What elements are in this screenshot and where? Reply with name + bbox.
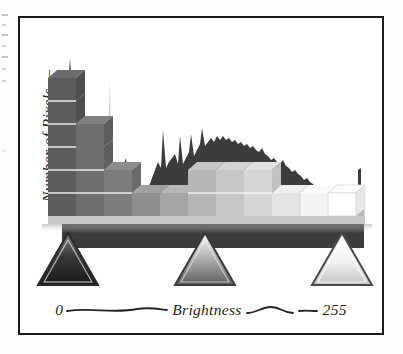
scan-artifact bbox=[2, 34, 8, 36]
histogram-graphic bbox=[20, 18, 382, 333]
x-axis-name: Brightness bbox=[169, 301, 244, 319]
scan-artifact bbox=[2, 80, 6, 82]
scan-artifact bbox=[2, 45, 6, 47]
x-axis-max-value: 255 bbox=[321, 301, 349, 319]
scan-artifact bbox=[2, 56, 8, 58]
x-axis-label: 0 Brightness 255 bbox=[20, 297, 382, 323]
x-axis-left-rule bbox=[65, 303, 169, 317]
scan-artifact bbox=[2, 14, 8, 16]
scan-artifact bbox=[2, 24, 6, 26]
scan-artifact bbox=[2, 150, 6, 152]
scanned-page: — Number of Pixels — bbox=[0, 0, 403, 354]
scan-artifact bbox=[2, 68, 6, 70]
figure-frame: — Number of Pixels — bbox=[18, 16, 384, 335]
x-axis-min-value: 0 bbox=[53, 301, 65, 319]
block-column-11 bbox=[328, 185, 365, 216]
histogram-plot: 0 Brightness 255 bbox=[20, 18, 382, 333]
x-axis-right-rule bbox=[245, 302, 321, 318]
